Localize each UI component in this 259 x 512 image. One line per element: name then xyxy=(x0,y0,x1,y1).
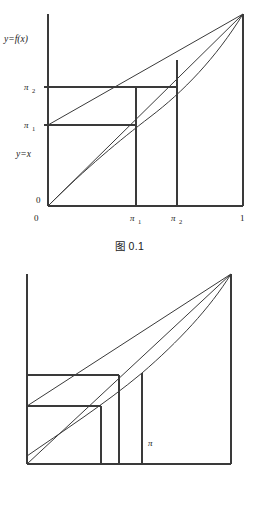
figure-1-svg: y=f(x) y=x π 2 π 1 0 0 π 1 xyxy=(0,0,259,230)
y-axis-origin-label: 0 xyxy=(36,195,41,205)
x-tick-label-pi2-sub: 2 xyxy=(179,218,182,225)
label-y-equals-f-x: y=f(x) xyxy=(3,34,28,45)
figure-0-2: π 图 0.2 xyxy=(0,256,259,512)
x-tick-label-pi1-sub: 1 xyxy=(138,218,141,225)
x-tick-label-pi2: π 2 xyxy=(171,213,182,225)
chord-line xyxy=(27,274,231,406)
y-tick-label-pi2-sub: 2 xyxy=(32,87,35,94)
y-tick-label-pi1-sub: 1 xyxy=(32,125,35,132)
figure-0-1: y=f(x) y=x π 2 π 1 0 0 π 1 xyxy=(0,0,259,256)
function-curve-y-equals-f-x xyxy=(27,274,231,456)
chord-line xyxy=(48,14,243,125)
label-y-equals-x: y=x xyxy=(15,149,32,159)
label-pi-fixed-point: π xyxy=(148,438,153,448)
y-tick-label-pi1-base: π xyxy=(24,120,29,130)
plot-area-figure-1: y=f(x) y=x π 2 π 1 0 0 π 1 xyxy=(0,0,259,230)
document-page: y=f(x) y=x π 2 π 1 0 0 π 1 xyxy=(0,0,259,512)
x-tick-label-pi1: π 1 xyxy=(130,213,141,225)
figure-2-svg: π xyxy=(0,256,259,474)
identity-line-y-equals-x xyxy=(48,14,243,206)
y-tick-label-pi1: π 1 xyxy=(24,120,35,132)
x-axis-origin-label: 0 xyxy=(34,213,39,223)
plot-area-figure-2: π xyxy=(0,256,259,474)
x-tick-label-pi1-base: π xyxy=(130,213,135,223)
figure-1-caption: 图 0.1 xyxy=(0,238,259,253)
x-axis-max-label: 1 xyxy=(240,213,245,223)
y-tick-label-pi2: π 2 xyxy=(24,82,35,94)
y-tick-label-pi2-base: π xyxy=(24,82,29,92)
x-tick-label-pi2-base: π xyxy=(171,213,176,223)
